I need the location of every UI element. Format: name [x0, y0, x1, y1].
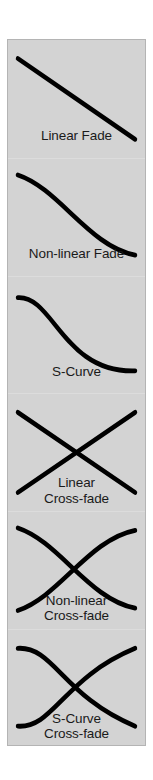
transition-curves-figure: Linear Fade Non-linear Fade S-Curve Line… — [7, 39, 146, 746]
caption-line: Linear — [8, 475, 145, 491]
panel-caption: Non-linear Fade — [8, 246, 145, 262]
panel-caption: Non-linear Cross-fade — [8, 593, 145, 624]
panel-linear-cross-fade: Linear Cross-fade — [8, 393, 145, 511]
panel-s-curve-cross-fade: S-Curve Cross-fade — [8, 629, 145, 747]
panel-non-linear-fade: Non-linear Fade — [8, 158, 145, 276]
panel-caption: Linear Fade — [8, 128, 145, 144]
curve-path — [18, 58, 135, 139]
panel-s-curve: S-Curve — [8, 276, 145, 394]
panel-caption: Linear Cross-fade — [8, 475, 145, 506]
caption-line: Non-linear Fade — [8, 246, 145, 262]
curve-path — [18, 175, 135, 255]
panel-caption: S-Curve Cross-fade — [8, 711, 145, 742]
caption-line: Non-linear — [8, 593, 145, 609]
caption-line: Linear Fade — [8, 128, 145, 144]
panel-non-linear-cross-fade: Non-linear Cross-fade — [8, 511, 145, 629]
caption-line: Cross-fade — [8, 491, 145, 507]
caption-line: Cross-fade — [8, 726, 145, 742]
caption-line: Cross-fade — [8, 608, 145, 624]
caption-line: S-Curve — [8, 364, 145, 380]
panel-caption: S-Curve — [8, 364, 145, 380]
caption-line: S-Curve — [8, 711, 145, 727]
curve-path — [18, 297, 135, 370]
panel-linear-fade: Linear Fade — [8, 40, 145, 158]
